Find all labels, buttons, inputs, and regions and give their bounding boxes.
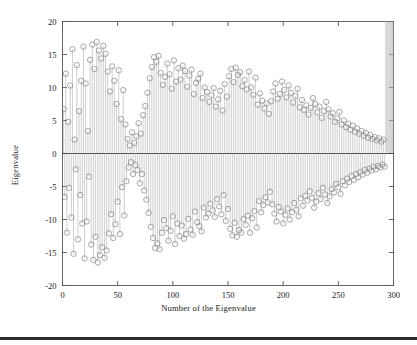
y-tick-label: 15 <box>48 50 57 60</box>
x-tick-label: 100 <box>166 290 179 300</box>
y-tick-label: 5 <box>52 116 56 126</box>
page-separator-rule <box>0 337 417 340</box>
y-tick-label: -20 <box>45 281 56 291</box>
x-tick-label: 0 <box>60 290 64 300</box>
x-tick-label: 250 <box>332 290 345 300</box>
y-tick-label: 10 <box>48 83 57 93</box>
x-tick-label: 200 <box>277 290 290 300</box>
eigenvalue-stem-figure: -20-15-10-505101520050100150200250300 Ei… <box>0 0 417 345</box>
y-tick-label: 20 <box>48 17 57 27</box>
eigenvalue-plot: -20-15-10-505101520050100150200250300 <box>0 0 417 345</box>
y-tick-label: -15 <box>45 248 56 258</box>
y-tick-label: -5 <box>49 182 56 192</box>
x-tick-label: 300 <box>387 290 400 300</box>
x-tick-label: 50 <box>113 290 122 300</box>
x-tick-label: 150 <box>222 290 235 300</box>
y-tick-label: 0 <box>52 149 56 159</box>
y-axis-title: Eigenvalue <box>10 120 20 210</box>
y-tick-label: -10 <box>45 215 56 225</box>
x-axis-title: Number of the Eigenvalue <box>0 303 417 313</box>
